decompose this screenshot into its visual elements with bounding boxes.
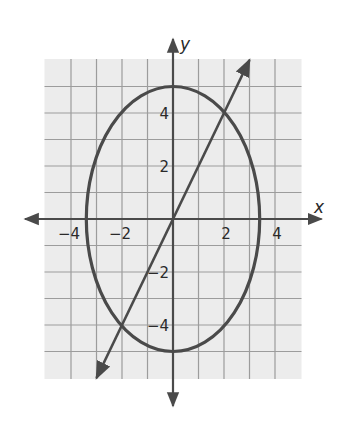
y-tick-label: −4 — [147, 317, 169, 335]
x-axis-label: x — [313, 197, 325, 217]
x-tick-label: 4 — [272, 225, 282, 243]
y-tick-label: 2 — [159, 158, 169, 176]
x-tick-label: −4 — [58, 225, 80, 243]
y-tick-label: −2 — [147, 264, 169, 282]
x-tick-label: 2 — [221, 225, 231, 243]
x-tick-label: −2 — [109, 225, 131, 243]
y-axis-label: y — [179, 34, 191, 54]
y-tick-label: 4 — [159, 105, 169, 123]
coordinate-plane: −4−22442−2−4xy — [0, 0, 344, 426]
